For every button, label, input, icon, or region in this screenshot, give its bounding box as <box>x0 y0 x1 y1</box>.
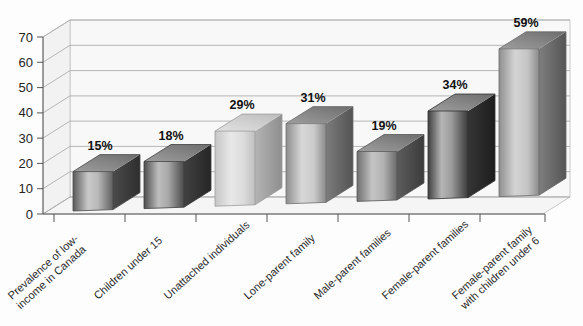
bar-front-3 <box>286 124 326 204</box>
y-tick-label-30: 30 <box>19 131 33 146</box>
y-tick-label-0: 0 <box>26 207 33 222</box>
y-axis-tick-labels: 70 60 50 40 30 20 10 0 <box>19 30 33 222</box>
bar-front-5 <box>428 111 468 199</box>
y-tick-label-50: 50 <box>19 80 33 95</box>
y-tick-label-10: 10 <box>19 181 33 196</box>
category-label-3: Lone-parent family <box>241 231 317 301</box>
bar-chart-3d: 70 60 50 40 30 20 10 0 15% <box>0 0 583 326</box>
bar-front-0 <box>73 172 113 211</box>
y-tick-label-70: 70 <box>19 30 33 45</box>
category-label-0: Prevalence of low- income in Canada <box>5 232 89 311</box>
y-axis <box>37 37 43 214</box>
bar-front-1 <box>144 162 184 209</box>
chart-container: 70 60 50 40 30 20 10 0 15% <box>0 0 583 326</box>
bar-group-5[interactable] <box>428 94 495 199</box>
category-label-2-line-0: Unattached individuals <box>161 218 252 301</box>
bar-group-6[interactable] <box>499 32 566 197</box>
category-label-6-line-0: Female-parent family <box>449 223 534 301</box>
bar-group-3[interactable] <box>286 107 353 204</box>
category-label-2: Unattached individuals <box>161 218 252 301</box>
y-tick-label-20: 20 <box>19 156 33 171</box>
bar-group-2[interactable] <box>215 114 282 206</box>
y-tick-label-60: 60 <box>19 55 33 70</box>
bar-value-label-1: 18% <box>158 129 183 143</box>
bar-side-6 <box>539 32 566 195</box>
bar-value-label-3: 31% <box>300 91 325 105</box>
bar-front-4 <box>357 152 397 202</box>
bar-front-6 <box>499 49 539 197</box>
y-tick-label-40: 40 <box>19 105 33 120</box>
bar-side-5 <box>468 94 495 198</box>
chart-left-wall <box>43 20 70 214</box>
bar-front-2 <box>215 131 255 206</box>
x-axis <box>43 214 545 222</box>
bar-value-label-2: 29% <box>229 98 254 112</box>
category-label-1-line-0: Children under 15 <box>91 234 164 301</box>
bar-value-label-0: 15% <box>87 139 112 153</box>
bar-value-label-4: 19% <box>371 119 396 133</box>
x-axis-category-labels: Prevalence of low- income in Canada Chil… <box>5 217 543 311</box>
bar-value-label-6: 59% <box>513 16 538 30</box>
category-label-6: Female-parent family with children under… <box>449 223 544 312</box>
category-label-1: Children under 15 <box>91 234 164 301</box>
category-label-3-line-0: Lone-parent family <box>241 231 317 301</box>
bar-value-label-5: 34% <box>442 78 467 92</box>
